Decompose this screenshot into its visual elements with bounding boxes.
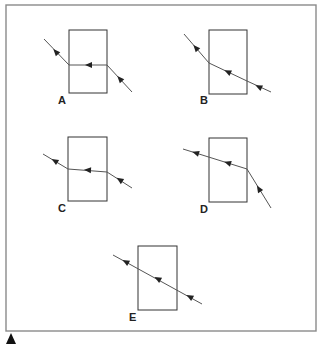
arrowhead-icon xyxy=(191,149,199,157)
figure-frame xyxy=(6,5,316,331)
glass-block xyxy=(69,30,107,93)
panel-a: A xyxy=(44,30,132,106)
glass-block xyxy=(209,30,247,94)
panel-c: C xyxy=(43,137,132,214)
arrowhead-icon xyxy=(223,159,231,167)
panel-b: B xyxy=(184,30,271,106)
panels-group: ABCDE xyxy=(43,30,271,323)
arrowhead-icon xyxy=(254,184,263,193)
panel-label: D xyxy=(200,203,208,215)
panel-label: B xyxy=(200,94,208,106)
arrowhead-icon xyxy=(50,156,59,165)
refraction-diagram: ABCDE xyxy=(0,0,324,344)
panel-label: E xyxy=(129,311,136,323)
arrowhead-icon xyxy=(85,62,92,68)
arrowhead-icon xyxy=(185,292,194,301)
arrowhead-icon xyxy=(115,175,124,184)
panel-d: D xyxy=(183,138,271,215)
corner-triangle-icon xyxy=(6,333,16,344)
glass-block xyxy=(209,138,247,202)
light-ray xyxy=(184,34,271,92)
arrowhead-icon xyxy=(254,83,263,91)
panel-e: E xyxy=(113,246,202,323)
arrowhead-icon xyxy=(223,68,232,76)
arrowhead-icon xyxy=(84,167,91,173)
panel-label: C xyxy=(58,202,66,214)
panel-label: A xyxy=(58,94,66,106)
light-ray xyxy=(183,149,271,208)
arrowhead-icon xyxy=(121,257,130,266)
